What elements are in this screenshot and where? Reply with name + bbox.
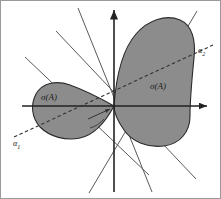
figure-canvas: σ(A) σ(A) α1 α2 bbox=[0, 0, 221, 199]
sigma-region-right bbox=[114, 18, 194, 147]
diagram-svg bbox=[0, 0, 221, 199]
